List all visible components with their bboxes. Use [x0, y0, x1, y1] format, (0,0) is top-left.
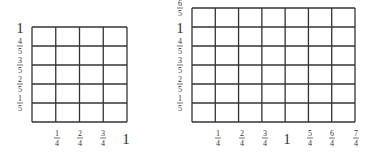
y-axis-label: 25 [177, 75, 183, 94]
y-axis-label-numerator: 1 [18, 94, 22, 103]
x-axis-label-denominator: 4 [101, 139, 105, 148]
y-axis-label-numerator: 3 [18, 56, 22, 65]
y-axis-label: 65 [177, 0, 183, 18]
x-axis-label-denominator: 4 [354, 139, 358, 148]
fraction-grids-canvas: 1424341145352515142434154647465145352515 [0, 0, 378, 153]
y-axis-label-whole: 1 [16, 20, 24, 36]
x-axis-label: 14 [54, 129, 60, 148]
y-axis-label-numerator: 2 [18, 75, 22, 84]
x-axis-label: 64 [329, 129, 335, 148]
x-axis-label-denominator: 4 [240, 139, 244, 148]
x-axis-label: 1 [122, 131, 130, 147]
x-axis-label-denominator: 4 [216, 139, 220, 148]
x-axis-label-whole: 1 [283, 131, 291, 147]
x-axis-label-numerator: 2 [78, 129, 82, 138]
right-grid-lines [192, 8, 355, 122]
x-axis-label-numerator: 2 [240, 129, 244, 138]
x-axis-label: 54 [307, 129, 313, 148]
y-axis-label: 25 [17, 75, 23, 94]
y-axis-label-denominator: 5 [18, 66, 22, 75]
y-axis-label: 15 [17, 94, 23, 113]
x-axis-label-denominator: 4 [78, 139, 82, 148]
x-axis-label-numerator: 3 [101, 129, 105, 138]
y-axis-label-denominator: 5 [18, 85, 22, 94]
y-axis-label-numerator: 3 [178, 56, 182, 65]
y-axis-label-whole: 1 [176, 20, 184, 36]
y-axis-label-denominator: 5 [178, 66, 182, 75]
left-grid-lines [32, 27, 127, 122]
x-axis-label-numerator: 7 [354, 129, 358, 138]
x-axis-label: 14 [215, 129, 221, 148]
y-axis-label-numerator: 2 [178, 75, 182, 84]
y-axis-label-denominator: 5 [178, 85, 182, 94]
y-axis-label: 45 [17, 37, 23, 56]
x-axis-label-numerator: 5 [308, 129, 312, 138]
x-axis-label: 1 [283, 131, 291, 147]
y-axis-label-numerator: 6 [178, 0, 182, 8]
x-axis-label-whole: 1 [122, 131, 130, 147]
y-axis-label-numerator: 4 [18, 37, 22, 46]
y-axis-label-denominator: 5 [18, 47, 22, 56]
x-axis-label: 34 [262, 129, 268, 148]
x-axis-label: 34 [100, 129, 106, 148]
y-axis-label-numerator: 4 [178, 37, 182, 46]
x-axis-label-denominator: 4 [55, 139, 59, 148]
x-axis-label-numerator: 1 [55, 129, 59, 138]
y-axis-label-denominator: 5 [178, 9, 182, 18]
x-axis-label-numerator: 6 [330, 129, 334, 138]
y-axis-label: 15 [177, 94, 183, 113]
y-axis-label: 35 [17, 56, 23, 75]
x-axis-label: 24 [77, 129, 83, 148]
y-axis-label-numerator: 1 [178, 94, 182, 103]
y-axis-label-denominator: 5 [18, 104, 22, 113]
y-axis-label: 1 [16, 20, 24, 36]
x-axis-label-denominator: 4 [308, 139, 312, 148]
y-axis-label-denominator: 5 [178, 47, 182, 56]
y-axis-label-denominator: 5 [178, 104, 182, 113]
x-axis-label-denominator: 4 [263, 139, 267, 148]
y-axis-label: 45 [177, 37, 183, 56]
right-grid: 142434154647465145352515 [176, 0, 359, 148]
x-axis-label-denominator: 4 [330, 139, 334, 148]
x-axis-label-numerator: 1 [216, 129, 220, 138]
x-axis-label: 24 [239, 129, 245, 148]
y-axis-label: 35 [177, 56, 183, 75]
x-axis-label-numerator: 3 [263, 129, 267, 138]
x-axis-label: 74 [353, 129, 359, 148]
left-grid: 1424341145352515 [16, 20, 130, 148]
y-axis-label: 1 [176, 20, 184, 36]
